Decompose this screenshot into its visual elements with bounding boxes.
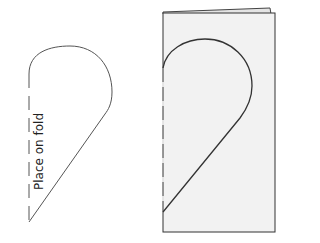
fold-label: Place on fold — [32, 113, 46, 190]
folded-paper — [163, 8, 275, 232]
